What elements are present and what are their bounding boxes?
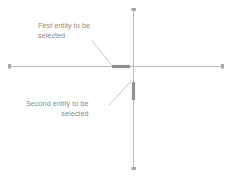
right-endpoint-marker	[221, 64, 224, 69]
second-entity-callout: Second entity to be selected	[26, 99, 89, 119]
first-entity-callout: First entity to be selected	[38, 21, 90, 41]
second-entity-callout-line2: selected	[26, 109, 89, 119]
top-endpoint-marker	[132, 8, 137, 11]
first-entity-callout-line1: First entity to be	[38, 21, 90, 31]
first-entity-leader-line	[92, 41, 112, 66]
second-entity-leader-line	[109, 81, 131, 105]
first-entity-callout-line2: selected	[38, 31, 90, 41]
second-entity-callout-line1: Second entity to be	[26, 99, 89, 109]
diagram-vector-layer	[0, 0, 232, 177]
cad-diagram-canvas: First entity to be selected Second entit…	[0, 0, 232, 177]
left-endpoint-marker	[8, 64, 11, 69]
bottom-endpoint-marker	[132, 167, 137, 170]
